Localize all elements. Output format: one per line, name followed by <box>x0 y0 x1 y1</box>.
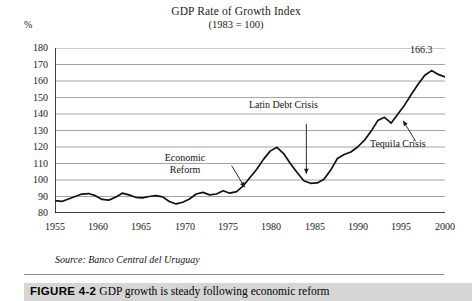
source-note: Source: Banco Central del Uruguay <box>55 254 200 265</box>
y-tick-label-100: 100 <box>18 175 48 185</box>
figure-caption: FIGURE 4-2 GDP growth is steady followin… <box>30 285 330 297</box>
annotation-economic-reform-line1: Economic <box>148 152 222 164</box>
figure-container: GDP Rate of Growth Index (1983 = 100) % … <box>0 0 472 301</box>
annotation-latin-debt-crisis-line1: Latin Debt Crisis <box>249 99 318 111</box>
y-tick-label-160: 160 <box>18 76 48 86</box>
annotation-tequila-crisis-line1: Tequila Crisis <box>370 138 426 150</box>
figure-caption-number: FIGURE 4-2 <box>30 285 96 297</box>
figure-caption-description: GDP growth is steady following economic … <box>99 285 329 297</box>
x-tick-label-1980: 1980 <box>251 222 291 232</box>
tequila-crisis-arrow-head <box>403 121 408 126</box>
annotation-economic-reform-line2: Reform <box>148 164 222 176</box>
chart-subtitle: (1983 = 100) <box>0 19 472 30</box>
x-tick-label-1985: 1985 <box>295 222 335 232</box>
x-tick-label-2000: 2000 <box>425 222 465 232</box>
y-tick-label-130: 130 <box>18 126 48 136</box>
x-tick-label-1990: 1990 <box>338 222 378 232</box>
latin-debt-crisis-arrow-head <box>304 169 309 174</box>
x-tick-label-1960: 1960 <box>78 222 118 232</box>
annotation-tequila-crisis: Tequila Crisis <box>370 138 426 150</box>
y-tick-label-120: 120 <box>18 142 48 152</box>
annotation-latin-debt-crisis: Latin Debt Crisis <box>249 99 318 111</box>
chart-plot-svg <box>55 48 445 213</box>
chart-title: GDP Rate of Growth Index <box>0 5 472 17</box>
y-tick-label-140: 140 <box>18 109 48 119</box>
y-tick-label-170: 170 <box>18 60 48 70</box>
x-tick-label-1970: 1970 <box>165 222 205 232</box>
y-tick-label-80: 80 <box>18 208 48 218</box>
peak-value-label: 166.3 <box>410 44 433 55</box>
y-tick-label-110: 110 <box>18 159 48 169</box>
annotation-economic-reform: Economic Reform <box>148 152 222 175</box>
x-tick-label-1955: 1955 <box>35 222 75 232</box>
x-tick-label-1965: 1965 <box>121 222 161 232</box>
y-axis-unit-label: % <box>24 19 32 30</box>
caption-divider <box>24 274 444 275</box>
y-tick-label-90: 90 <box>18 192 48 202</box>
x-tick-label-1975: 1975 <box>208 222 248 232</box>
y-tick-label-150: 150 <box>18 93 48 103</box>
x-tick-label-1995: 1995 <box>381 222 421 232</box>
y-tick-label-180: 180 <box>18 43 48 53</box>
plot-area <box>55 48 445 213</box>
gridlines-group <box>55 48 445 213</box>
